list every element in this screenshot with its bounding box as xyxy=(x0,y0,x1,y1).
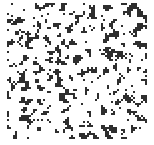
noise-specks xyxy=(7,3,147,139)
noise-texture xyxy=(7,3,147,140)
